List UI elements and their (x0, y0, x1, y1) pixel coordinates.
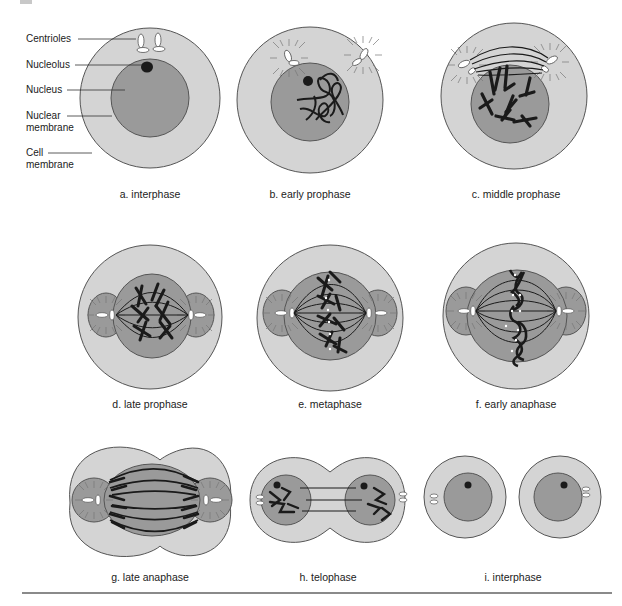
cell-g-late-anaphase (70, 447, 232, 556)
label-cell-membrane-line2: membrane (26, 159, 74, 170)
caption-e: e. metaphase (250, 398, 410, 410)
cell-f-early-anaphase (443, 243, 589, 389)
label-nuclear-membrane: Nuclear membrane (26, 110, 74, 134)
label-nuclear-membrane-line1: Nuclear (26, 110, 60, 121)
label-centrioles: Centrioles (26, 33, 71, 45)
label-cell-membrane-line1: Cell (26, 147, 43, 158)
cell-i-interphase-left (424, 456, 506, 538)
caption-d: d. late prophase (70, 398, 230, 410)
caption-h: h. telophase (248, 571, 408, 583)
caption-g: g. late anaphase (70, 571, 230, 583)
cell-e-metaphase (257, 245, 403, 391)
label-nuclear-membrane-line2: membrane (26, 122, 74, 133)
cell-b-early-prophase (237, 27, 383, 173)
mitosis-diagram (0, 0, 622, 606)
caption-f: f. early anaphase (436, 398, 596, 410)
cell-h-telophase (250, 458, 407, 543)
nucleolus-a (141, 62, 153, 73)
caption-b: b. early prophase (230, 188, 390, 200)
label-cell-membrane: Cell membrane (26, 147, 74, 171)
cell-d-late-prophase (78, 245, 222, 389)
caption-a: a. interphase (70, 188, 230, 200)
cell-c-middle-prophase (441, 23, 587, 169)
label-nucleolus: Nucleolus (26, 59, 70, 71)
cell-i-interphase-right (519, 456, 601, 538)
caption-c: c. middle prophase (436, 188, 596, 200)
bottom-rule-divider (22, 592, 612, 594)
caption-i: i. interphase (433, 571, 593, 583)
label-nucleus: Nucleus (26, 84, 62, 96)
